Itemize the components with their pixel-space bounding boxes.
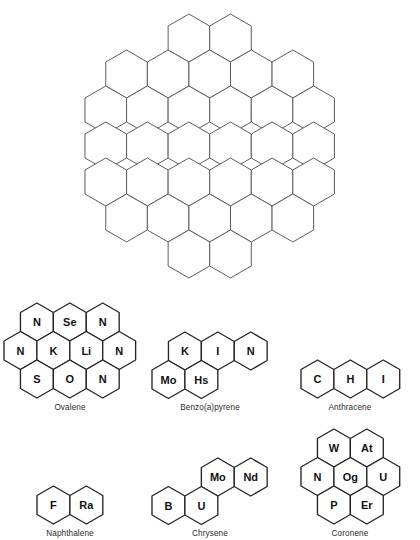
hexagon-symbol-label: O — [66, 373, 75, 385]
hexagon-symbol-label: At — [361, 443, 373, 455]
molecule-caption: Benzo(a)pyrene — [180, 403, 240, 412]
molecule-svg-chrysene: MoNdBU — [150, 456, 269, 527]
hexagon-symbol-label: Mo — [161, 373, 177, 385]
hexagon-symbol-label: B — [165, 499, 173, 511]
hexagon-symbol-label: K — [50, 345, 58, 357]
hexagon-symbol-label: I — [381, 373, 384, 385]
hexagon-symbol-label: Li — [82, 345, 92, 357]
molecule-caption: Chrysene — [192, 529, 228, 538]
hexagon-symbol-label: K — [181, 345, 189, 357]
molecule-svg-ovalene: NSeNNKLiNSON — [2, 301, 138, 400]
molecule-card-ovalene: NSeNNKLiNSON Ovalene — [0, 288, 140, 414]
hexagon-symbol-label: N — [99, 373, 107, 385]
hexagon-symbol-label: Mo — [210, 471, 226, 483]
molecule-card-naphthalene: FRa Naphthalene — [0, 414, 140, 540]
molecule-svg-anthracene: CHI — [299, 358, 402, 400]
molecule-figure: CHI — [299, 358, 402, 400]
hexagon-symbol-label: C — [313, 373, 321, 385]
hexagon-symbol-label: N — [17, 345, 25, 357]
molecule-svg-naphthalene: FRa — [35, 484, 105, 526]
molecule-figure: NSeNNKLiNSON — [2, 301, 138, 400]
molecule-figure: MoNdBU — [150, 456, 269, 527]
hexagon-symbol-label: N — [99, 317, 107, 329]
hexagon-symbol-label: N — [115, 345, 123, 357]
molecule-card-chrysene: MoNdBU Chrysene — [140, 414, 280, 540]
hexagon-symbol-label: Er — [361, 499, 373, 511]
hexagon-symbol-label: W — [328, 443, 339, 455]
molecule-caption: Coronene — [332, 529, 369, 538]
molecule-card-coronene: WAtNOgUPEr Coronene — [280, 414, 420, 540]
hexagon-symbol-label: N — [33, 317, 41, 329]
hexagon-symbol-label: U — [198, 499, 206, 511]
hexagon-symbol-label: Se — [63, 317, 76, 329]
molecule-caption: Anthracene — [329, 403, 372, 412]
molecule-figure: WAtNOgUPEr — [299, 427, 402, 526]
hexagon-symbol-label: Og — [342, 471, 357, 483]
hexagon-symbol-label: P — [330, 499, 337, 511]
hexagon-symbol-label: F — [50, 499, 57, 511]
hexagon-symbol-label: I — [217, 345, 220, 357]
molecule-figure: FRa — [35, 484, 105, 526]
hexagon-symbol-label: H — [346, 373, 354, 385]
large-honeycomb-lattice — [0, 12, 420, 290]
hexagon-symbol-label: U — [379, 471, 387, 483]
large-honeycomb-svg — [83, 12, 336, 280]
hexagon-symbol-label: Ra — [79, 499, 94, 511]
molecule-caption: Ovalene — [54, 403, 85, 412]
molecule-card-benzo-a-pyrene: KINMoHs Benzo(a)pyrene — [140, 288, 280, 414]
hexagon-symbol-label: Hs — [195, 373, 209, 385]
hexagon-symbol-label: N — [313, 471, 321, 483]
hexagon-symbol-label: N — [247, 345, 255, 357]
molecule-gallery: NSeNNKLiNSON Ovalene KINMoHs Benzo(a)pyr… — [0, 288, 420, 540]
molecule-caption: Naphthalene — [46, 529, 94, 538]
molecule-figure: KINMoHs — [150, 330, 269, 401]
hexagon-symbol-label: Nd — [244, 471, 259, 483]
molecule-svg-benzo-a-pyrene: KINMoHs — [150, 330, 269, 401]
molecule-svg-coronene: WAtNOgUPEr — [299, 427, 402, 526]
hexagon-symbol-label: S — [33, 373, 40, 385]
molecule-card-anthracene: CHI Anthracene — [280, 288, 420, 414]
